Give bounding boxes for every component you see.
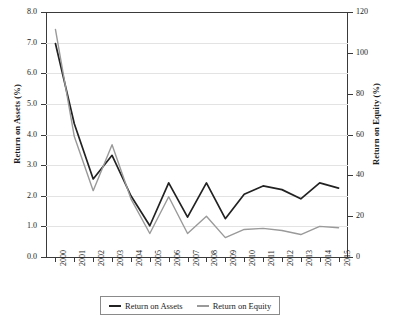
legend-swatch-icon <box>197 305 209 307</box>
legend-item[interactable]: Return on Equity <box>197 301 272 311</box>
y-axis-right-tick <box>348 12 353 13</box>
y-axis-right-tick-label: 120 <box>356 7 388 16</box>
x-axis-tick <box>301 258 302 262</box>
y-axis-left-tick-label: 7.0 <box>3 38 37 47</box>
x-axis-tick <box>244 258 245 262</box>
x-axis-tick <box>74 258 75 262</box>
y-axis-right-tick <box>348 94 353 95</box>
y-axis-left-tick-label: 8.0 <box>3 7 37 16</box>
series-lines <box>46 12 348 257</box>
y-axis-left-tick-label: 3.0 <box>3 160 37 169</box>
y-axis-left-tick-label: 4.0 <box>3 130 37 139</box>
x-axis-tick <box>131 258 132 262</box>
y-axis-right-tick-label: 80 <box>356 89 388 98</box>
y-axis-left-tick-label: 6.0 <box>3 68 37 77</box>
chart-legend: Return on AssetsReturn on Equity <box>100 296 280 315</box>
y-axis-right-tick-label: 0 <box>356 252 388 261</box>
x-axis-tick <box>206 258 207 262</box>
y-axis-left-tick-label: 1.0 <box>3 221 37 230</box>
y-axis-right-tick-label: 100 <box>356 48 388 57</box>
x-axis-tick <box>263 258 264 262</box>
y-axis-left-title: Return on Assets (%) <box>12 59 22 189</box>
x-axis-tick <box>112 258 113 262</box>
x-axis-tick <box>93 258 94 262</box>
legend-label: Return on Assets <box>125 301 183 311</box>
x-axis-tick <box>188 258 189 262</box>
y-axis-right-tick <box>348 216 353 217</box>
y-axis-right-tick-label: 60 <box>356 130 388 139</box>
legend-item[interactable]: Return on Assets <box>109 301 183 311</box>
y-axis-right-tick-label: 40 <box>356 170 388 179</box>
y-axis-right-tick <box>348 175 353 176</box>
x-axis-tick <box>339 258 340 262</box>
series-line-return-on-equity <box>55 29 338 237</box>
x-axis-tick <box>55 258 56 262</box>
legend-swatch-icon <box>109 305 121 307</box>
y-axis-left-tick-label: 0.0 <box>3 252 37 261</box>
chart-figure: Return on Assets (%) Return on Equity (%… <box>0 0 393 322</box>
x-axis-tick <box>169 258 170 262</box>
legend-label: Return on Equity <box>213 301 272 311</box>
series-line-return-on-assets <box>55 44 338 226</box>
y-axis-left-tick-label: 5.0 <box>3 99 37 108</box>
y-axis-left-tick <box>41 257 46 258</box>
y-axis-right-tick <box>348 135 353 136</box>
y-axis-right-tick <box>348 53 353 54</box>
y-axis-left-tick-label: 2.0 <box>3 191 37 200</box>
x-axis-tick <box>150 258 151 262</box>
y-axis-right-tick-label: 20 <box>356 211 388 220</box>
x-axis-tick <box>225 258 226 262</box>
x-axis-tick <box>320 258 321 262</box>
x-axis-tick <box>282 258 283 262</box>
